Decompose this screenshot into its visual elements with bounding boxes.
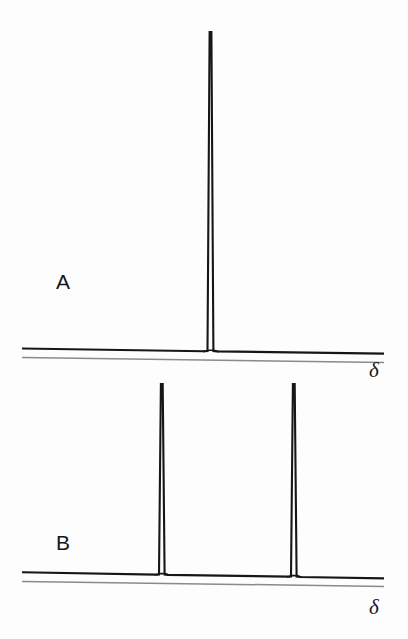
panel-b-group: [22, 384, 384, 586]
panel-a-axis-line: [22, 358, 384, 363]
panel-b-trace: [22, 384, 384, 578]
panel-b-label: B: [56, 532, 70, 553]
nmr-spectra-figure: A δ B δ: [0, 0, 408, 639]
panel-b-peak2-base: [287, 576, 302, 578]
panel-a-peak-base: [203, 350, 219, 352]
panel-a-delta-axis-label: δ: [369, 360, 379, 381]
panel-a-label: A: [56, 271, 70, 292]
panel-b-peak1-base: [155, 574, 170, 576]
panel-b-axis-line: [22, 581, 384, 586]
panel-b-delta-axis-label: δ: [369, 597, 379, 618]
panel-a-group: [22, 32, 384, 362]
panel-a-trace: [22, 32, 384, 354]
